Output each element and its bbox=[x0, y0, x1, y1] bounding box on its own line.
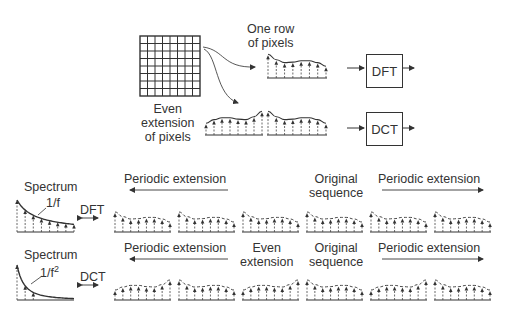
dft-original-sequence bbox=[305, 212, 364, 232]
sample-arrowhead bbox=[257, 286, 261, 290]
sample-arrowhead bbox=[321, 220, 325, 224]
sample-arrowhead bbox=[216, 286, 220, 290]
sample-arrowhead bbox=[209, 286, 213, 290]
sample-arrowhead bbox=[313, 286, 317, 290]
sample-arrowhead bbox=[457, 288, 461, 292]
dct-original-line2: sequence bbox=[309, 255, 363, 269]
even-extension-label-line3: of pixels bbox=[141, 130, 195, 144]
sample-arrowhead bbox=[472, 218, 476, 222]
sample-arrowhead bbox=[291, 63, 295, 67]
dft-original-line1: Original bbox=[309, 172, 363, 186]
sample-arrowhead bbox=[232, 291, 236, 295]
pixel-grid bbox=[140, 36, 200, 96]
sample-arrowhead bbox=[337, 218, 341, 222]
sample-arrowhead bbox=[288, 220, 292, 224]
sample-arrowhead bbox=[177, 281, 181, 285]
sample-arrowhead bbox=[129, 286, 133, 290]
sample-arrowhead bbox=[168, 223, 172, 227]
sample-arrowhead bbox=[280, 218, 284, 222]
sample-arrowhead bbox=[283, 121, 287, 125]
sample-arrowhead bbox=[204, 124, 208, 128]
sample-arrowhead bbox=[152, 288, 156, 292]
sample-arrowhead bbox=[480, 220, 484, 224]
sample-arrowhead bbox=[228, 119, 232, 123]
sample-arrowhead bbox=[212, 121, 216, 125]
sample-arrowhead bbox=[252, 118, 256, 122]
sample-arrowhead bbox=[280, 288, 284, 292]
sample-arrowhead bbox=[129, 220, 133, 224]
sample-arrowhead bbox=[316, 64, 320, 68]
dct-periodic-copy bbox=[177, 280, 236, 300]
dft-box: DFT bbox=[366, 54, 403, 88]
sample-arrowhead bbox=[296, 223, 300, 227]
sample-arrowhead bbox=[160, 286, 164, 290]
sample-arrowhead bbox=[113, 213, 117, 217]
even-extension-original bbox=[266, 111, 328, 135]
sample-arrowhead bbox=[224, 288, 228, 292]
dct-periodic-copy bbox=[433, 280, 492, 300]
sample-arrowhead bbox=[137, 220, 141, 224]
sample-arrowhead bbox=[433, 281, 437, 285]
sample-arrowhead bbox=[408, 218, 412, 222]
sample-arrowhead bbox=[344, 218, 348, 222]
sample-arrowhead bbox=[209, 218, 213, 222]
sample-arrowhead bbox=[145, 288, 149, 292]
dct-spectrum-formula: 1/f2 bbox=[40, 262, 59, 280]
sample-arrowhead bbox=[168, 281, 172, 285]
spectrum-arrowhead bbox=[72, 224, 76, 228]
sample-arrowhead bbox=[360, 291, 364, 295]
sample-arrowhead bbox=[472, 286, 476, 290]
sample-arrowhead bbox=[344, 286, 348, 290]
sample-arrowhead bbox=[465, 218, 469, 222]
sample-arrowhead bbox=[121, 288, 125, 292]
sample-arrowhead bbox=[244, 121, 248, 125]
sample-arrowhead bbox=[441, 286, 445, 290]
dct-spectrum-label: Spectrum bbox=[24, 248, 78, 262]
sample-arrowhead bbox=[273, 218, 277, 222]
sample-arrowhead bbox=[241, 213, 245, 217]
dct-even-line2: extension bbox=[240, 255, 294, 269]
sample-arrowhead bbox=[480, 288, 484, 292]
sample-arrowhead bbox=[201, 288, 205, 292]
sample-arrowhead bbox=[160, 220, 164, 224]
dct-even-extension bbox=[241, 280, 300, 300]
dct-formula-base: 1/f bbox=[40, 266, 54, 280]
sample-arrowhead bbox=[337, 286, 341, 290]
sample-arrowhead bbox=[185, 286, 189, 290]
sample-arrowhead bbox=[145, 218, 149, 222]
sample-arrowhead bbox=[266, 55, 270, 59]
curved-arrow-to-even bbox=[204, 49, 238, 103]
sample-arrowhead bbox=[377, 288, 381, 292]
sample-arrowhead bbox=[393, 286, 397, 290]
sample-arrowhead bbox=[260, 112, 264, 116]
sample-arrowhead bbox=[137, 286, 141, 290]
sample-arrowhead bbox=[433, 213, 437, 217]
sample-arrowhead bbox=[308, 119, 312, 123]
sample-arrowhead bbox=[329, 288, 333, 292]
dct-even-line1: Even bbox=[240, 241, 294, 255]
sample-arrowhead bbox=[113, 291, 117, 295]
sample-arrowhead bbox=[360, 223, 364, 227]
dct-right-periodic-label: Periodic extension bbox=[378, 241, 480, 255]
sample-arrowhead bbox=[369, 213, 373, 217]
sample-arrowhead bbox=[385, 286, 389, 290]
sample-arrowhead bbox=[288, 286, 292, 290]
spectrum-arrowhead bbox=[15, 265, 19, 269]
sample-arrowhead bbox=[283, 64, 287, 68]
sample-arrowhead bbox=[236, 120, 240, 124]
dct-even-extension-label: Even extension bbox=[240, 241, 294, 269]
dct-transform-label: DCT bbox=[80, 270, 106, 284]
sample-arrowhead bbox=[321, 288, 325, 292]
sample-arrowhead bbox=[441, 218, 445, 222]
sample-arrowhead bbox=[177, 213, 181, 217]
sample-arrowhead bbox=[249, 218, 253, 222]
dft-periodic-copy bbox=[241, 212, 300, 232]
sample-arrowhead bbox=[274, 61, 278, 65]
sample-arrowhead bbox=[299, 62, 303, 66]
even-extension-label-line2: extension bbox=[141, 116, 195, 130]
dct-original-sequence-label: Original sequence bbox=[309, 241, 363, 269]
sample-arrowhead bbox=[316, 121, 320, 125]
sample-arrowhead bbox=[224, 220, 228, 224]
sample-arrowhead bbox=[241, 291, 245, 295]
sample-arrowhead bbox=[324, 67, 328, 71]
